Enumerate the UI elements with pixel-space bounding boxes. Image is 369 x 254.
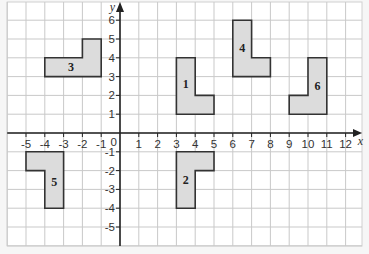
shape-label: 3 bbox=[68, 60, 74, 74]
x-tick-label: -3 bbox=[58, 138, 68, 150]
x-tick-label: 6 bbox=[230, 138, 236, 150]
x-tick-label: 5 bbox=[211, 138, 217, 150]
y-tick-label: 3 bbox=[109, 71, 115, 83]
shape-label: 4 bbox=[239, 41, 245, 55]
y-tick-label: 1 bbox=[109, 108, 115, 120]
y-axis-label: y bbox=[109, 0, 116, 14]
grid-svg: 123456 -5-4-3-2-1123456789101112654321-1… bbox=[0, 0, 369, 254]
x-tick-label: 9 bbox=[286, 138, 292, 150]
y-tick-label: 5 bbox=[109, 33, 115, 45]
y-tick-label: -5 bbox=[105, 221, 115, 233]
y-tick-label: 6 bbox=[109, 14, 115, 26]
grid-lines bbox=[7, 2, 362, 246]
shape-label: 6 bbox=[314, 79, 320, 93]
x-tick-label: 2 bbox=[154, 138, 160, 150]
y-tick-label: -4 bbox=[105, 202, 116, 214]
x-tick-label: 8 bbox=[267, 138, 273, 150]
y-tick-label: 2 bbox=[109, 89, 115, 101]
shape-label: 5 bbox=[51, 175, 57, 189]
x-axis-label: x bbox=[357, 134, 364, 148]
x-tick-label: 3 bbox=[173, 138, 179, 150]
y-tick-label: -2 bbox=[105, 165, 115, 177]
x-tick-label: -4 bbox=[40, 138, 51, 150]
coordinate-grid-diagram: 123456 -5-4-3-2-1123456789101112654321-1… bbox=[0, 0, 369, 254]
x-tick-label: 4 bbox=[192, 138, 199, 150]
x-tick-label: 12 bbox=[339, 138, 352, 150]
x-tick-label: 7 bbox=[248, 138, 254, 150]
shape-label: 2 bbox=[183, 173, 189, 187]
x-tick-label: 10 bbox=[302, 138, 315, 150]
x-tick-label: -5 bbox=[21, 138, 31, 150]
x-tick-label: 11 bbox=[321, 138, 333, 150]
y-tick-label: 4 bbox=[109, 52, 116, 64]
x-tick-label: -2 bbox=[77, 138, 87, 150]
x-tick-label: 1 bbox=[136, 138, 142, 150]
y-tick-label: -3 bbox=[105, 183, 115, 195]
origin-label: 0 bbox=[111, 136, 117, 148]
shape-label: 1 bbox=[183, 77, 189, 91]
